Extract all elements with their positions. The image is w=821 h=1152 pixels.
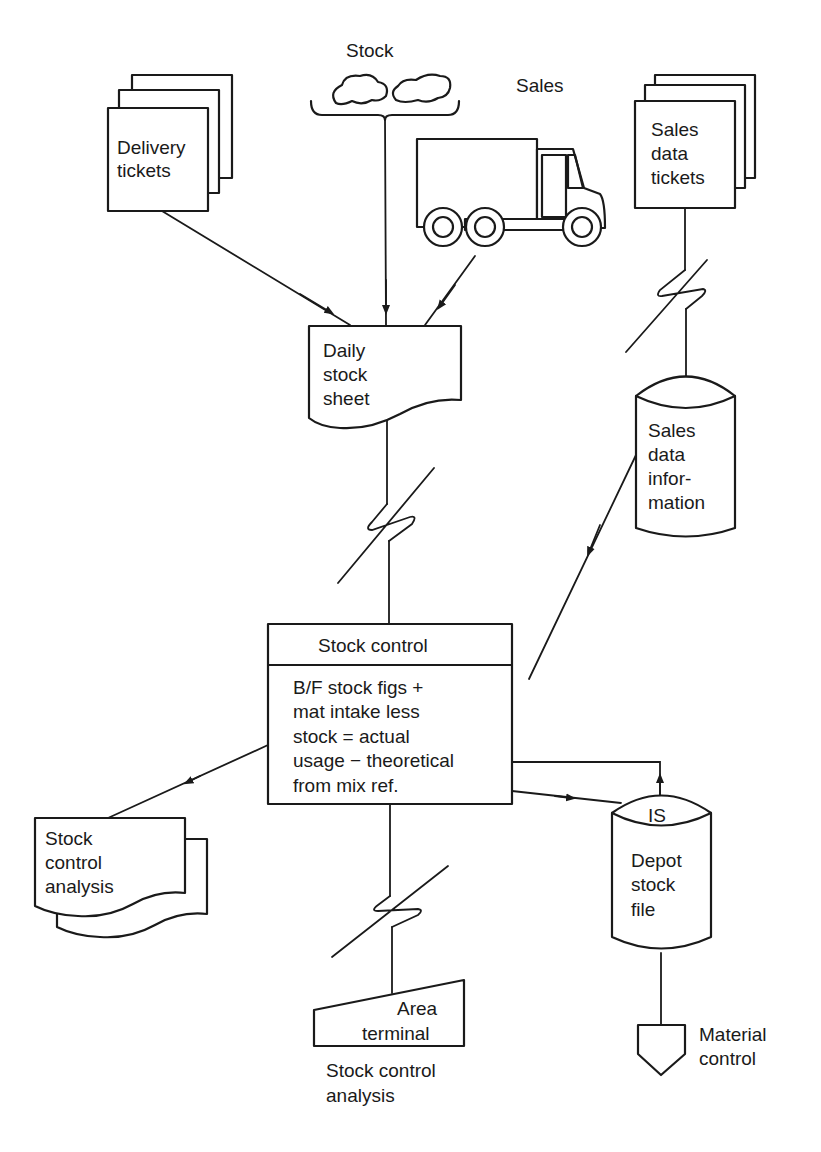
arrow-analysis — [188, 776, 200, 782]
area-terminal-caption: Stock control analysis — [326, 1060, 441, 1106]
stock-control-title: Stock control — [318, 635, 428, 656]
node-material-control: Material control — [638, 1024, 772, 1075]
flowchart-canvas: Stock Sales Delivery tickets — [0, 0, 821, 1152]
brace-icon — [311, 101, 459, 120]
node-sales: Sales — [417, 75, 605, 246]
cloud-icon — [333, 75, 387, 104]
arrow-info — [589, 525, 600, 552]
arrow-delivery — [300, 294, 330, 312]
truck-icon — [417, 139, 605, 246]
stock-label: Stock — [346, 40, 394, 61]
edge-info-to-control — [529, 455, 636, 679]
comm-link-zigzag-2 — [626, 260, 707, 352]
node-stock-control: Stock control B/F stock figs + mat intak… — [268, 624, 512, 804]
edge-depot-to-control — [512, 762, 660, 797]
sales-label: Sales — [516, 75, 564, 96]
node-stock: Stock — [311, 40, 459, 120]
node-depot-stock-file: IS Depot stock file — [612, 796, 711, 949]
arrow-to-depot — [555, 796, 571, 798]
node-sales-data-information: Sales data infor- mation — [636, 377, 735, 537]
daily-stock-sheet-label: Daily stock sheet — [323, 340, 373, 409]
depot-tag-label: IS — [648, 805, 666, 826]
node-delivery-tickets: Delivery tickets — [108, 75, 232, 211]
arrow-sales — [440, 285, 455, 306]
node-stock-control-analysis-doc: Stock control analysis — [35, 818, 207, 937]
node-area-terminal: Area terminal Stock control analysis — [314, 980, 464, 1106]
cloud-icon — [393, 75, 450, 102]
material-control-label: Material control — [699, 1024, 772, 1069]
node-sales-data-tickets: Sales data tickets — [635, 75, 755, 208]
comm-link-zigzag-1 — [338, 468, 434, 583]
node-daily-stock-sheet: Daily stock sheet — [309, 326, 461, 428]
